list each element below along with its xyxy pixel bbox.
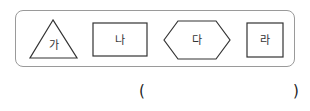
shapes-figure: 가 나 다 라: [0, 0, 310, 111]
answer-open-paren: (: [139, 82, 145, 100]
triangle-shape: 가: [30, 20, 77, 58]
svg-text:다: 다: [192, 34, 202, 47]
svg-text:가: 가: [49, 39, 59, 52]
square-shape: 라: [247, 23, 283, 57]
svg-text:라: 라: [260, 34, 270, 47]
svg-text:나: 나: [115, 34, 125, 47]
rectangle-shape: 나: [93, 23, 147, 56]
answer-close-paren: ): [293, 82, 299, 100]
hexagon-shape: 다: [164, 21, 230, 59]
